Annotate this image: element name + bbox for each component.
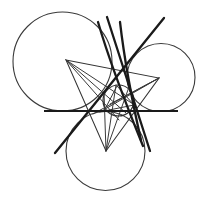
figure-canvas (0, 0, 202, 205)
geometry-diagram (0, 0, 202, 205)
